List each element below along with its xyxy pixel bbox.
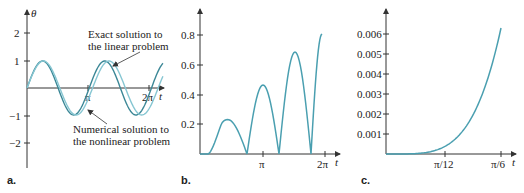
- y-axis-label: θ: [31, 7, 37, 19]
- y-tick-0.001: 0.001: [357, 128, 382, 140]
- panel-c: 0.006 0.005 0.004 0.003 0.002 0.001 π/12…: [357, 9, 516, 186]
- figure: θ 2 1 −1 −2 π 2π t Exact solution to the…: [0, 0, 524, 193]
- y-tick-0.6: 0.6: [181, 59, 195, 71]
- y-tick-m2: −2: [9, 137, 21, 149]
- x-axis-label: t: [159, 90, 163, 102]
- y-tick-0.4: 0.4: [181, 89, 195, 101]
- numerical-pointer: [88, 110, 107, 124]
- panel-a: θ 2 1 −1 −2 π 2π t Exact solution to the…: [7, 7, 171, 186]
- panel-label-b: b.: [181, 174, 191, 186]
- exact-annotation-line2: the linear problem: [88, 40, 169, 52]
- difference-curve: [200, 34, 322, 154]
- x-axis-label: t: [335, 156, 339, 168]
- y-tick-m1: −1: [9, 110, 21, 122]
- x-tick-2pi: 2π: [317, 158, 329, 170]
- y-tick-0.005: 0.005: [357, 48, 382, 60]
- y-tick-0.002: 0.002: [357, 108, 382, 120]
- y-tick-2: 2: [14, 27, 20, 39]
- x-tick-pi-6: π/6: [491, 158, 506, 170]
- x-axis-label: t: [512, 156, 516, 168]
- y-tick-0.003: 0.003: [357, 88, 382, 100]
- panel-b: 0.8 0.6 0.4 0.2 π 2π t b.: [181, 9, 340, 186]
- exact-annotation-line1: Exact solution to: [88, 28, 163, 40]
- numerical-annotation-line1: Numerical solution to: [73, 123, 169, 135]
- y-tick-0.004: 0.004: [357, 68, 382, 80]
- y-tick-1: 1: [14, 55, 20, 67]
- panel-label-c: c.: [361, 174, 370, 186]
- y-tick-0.2: 0.2: [181, 118, 195, 130]
- small-t-difference-curve: [386, 28, 501, 154]
- numerical-annotation-line2: the nonlinear problem: [73, 135, 171, 147]
- x-tick-pi-12: π/12: [434, 158, 454, 170]
- y-tick-0.006: 0.006: [357, 28, 382, 40]
- exact-pointer: [113, 52, 140, 66]
- y-tick-0.8: 0.8: [181, 29, 195, 41]
- panel-label-a: a.: [7, 174, 16, 186]
- x-tick-pi: π: [259, 158, 265, 170]
